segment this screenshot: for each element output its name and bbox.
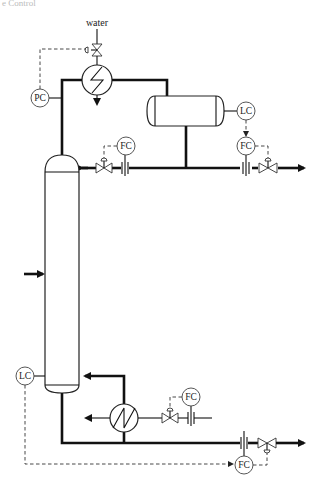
steam-fc-signal bbox=[170, 397, 182, 408]
reflux-drum[interactable] bbox=[147, 96, 224, 126]
bottoms-orifice bbox=[241, 431, 247, 456]
svg-text:FC: FC bbox=[120, 141, 132, 151]
pressure-controller-pc[interactable]: PC bbox=[31, 89, 49, 107]
clipped-title: e Control bbox=[2, 0, 36, 8]
reflux-flow-controller-fc[interactable]: FC bbox=[117, 137, 135, 155]
svg-text:LC: LC bbox=[19, 371, 31, 381]
overhead-vapor-line bbox=[62, 80, 82, 155]
steam-orifice bbox=[188, 406, 194, 426]
distillate-fc-signal bbox=[255, 146, 268, 158]
reboiler-vapor-return bbox=[85, 376, 124, 404]
bottoms-control-valve[interactable] bbox=[258, 438, 276, 453]
condensate-line bbox=[112, 80, 167, 96]
process-diagram: e Control water PC LC bbox=[0, 0, 326, 492]
steam-flow-controller-fc[interactable]: FC bbox=[182, 388, 200, 406]
water-control-valve[interactable] bbox=[85, 44, 102, 56]
distillate-control-valve[interactable] bbox=[259, 158, 277, 173]
svg-text:FC: FC bbox=[238, 460, 250, 470]
condenser[interactable] bbox=[82, 65, 112, 95]
distillate-flow-controller-fc[interactable]: FC bbox=[237, 137, 255, 155]
reflux-control-valve[interactable] bbox=[96, 158, 112, 173]
drum-level-controller-lc[interactable]: LC bbox=[237, 102, 255, 120]
water-label: water bbox=[86, 17, 109, 28]
svg-text:FC: FC bbox=[185, 392, 197, 402]
reflux-orifice bbox=[122, 155, 128, 176]
svg-text:PC: PC bbox=[34, 93, 46, 103]
bottom-level-controller-lc[interactable]: LC bbox=[16, 367, 34, 385]
reflux-fc-signal bbox=[104, 146, 117, 158]
svg-text:LC: LC bbox=[240, 106, 252, 116]
steam-control-valve[interactable] bbox=[162, 408, 178, 423]
distillation-column[interactable] bbox=[45, 155, 79, 393]
bottoms-flow-controller-fc[interactable]: FC bbox=[235, 456, 253, 474]
bottoms-fc-signal bbox=[253, 453, 267, 465]
reboiler[interactable] bbox=[110, 404, 138, 432]
distillate-orifice bbox=[243, 155, 249, 176]
svg-text:FC: FC bbox=[240, 141, 252, 151]
